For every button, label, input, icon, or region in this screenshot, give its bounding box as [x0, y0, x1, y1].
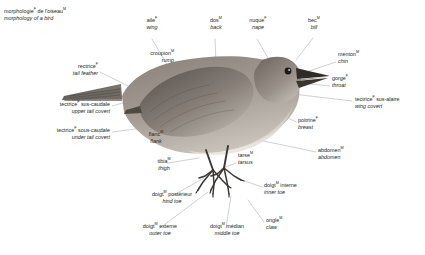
- label-abdomen: abdomenM abdomen: [318, 147, 344, 161]
- gender-marker: F: [96, 62, 98, 66]
- gender-marker: M: [219, 16, 222, 20]
- label-doigt-posterieur: doigtM postérieur hind toe: [133, 191, 211, 205]
- label-tectrice-sous-caudale: tectriceF sous-caudale under tail covert: [8, 127, 110, 141]
- label-nuque: nuqueF nape: [236, 17, 280, 31]
- label-croupion: croupionM rump: [116, 50, 174, 64]
- gender-marker: F: [155, 16, 157, 20]
- gender-marker: M: [167, 157, 170, 161]
- page-title: morphologieF de l'oiseauM morphology of …: [4, 8, 66, 22]
- gender-marker: F: [316, 116, 318, 120]
- gender-marker: M: [171, 49, 174, 53]
- label-gorge: gorgeF throat: [332, 75, 348, 89]
- label-poitrine: poitrineF breast: [298, 117, 318, 131]
- label-ongle: ongleM claw: [266, 217, 282, 231]
- label-tarse: tarseM tarsus: [238, 152, 253, 166]
- label-doigt-externe: doigtM externe outer toe: [129, 223, 191, 237]
- gender-marker: M: [63, 7, 66, 11]
- label-dos: dosM back: [196, 17, 236, 31]
- label-bec: becM bill: [294, 17, 334, 31]
- gender-marker: M: [160, 130, 163, 134]
- gender-marker: M: [356, 50, 359, 54]
- gender-marker: M: [279, 216, 282, 220]
- gender-marker: F: [264, 16, 266, 20]
- page-title-en: morphology of a bird: [4, 15, 66, 22]
- page-title-fr: morphologieF de l'oiseauM: [4, 8, 66, 15]
- label-tectrice-sus-alaire: tectriceF sus-alaire wing covert: [355, 96, 400, 110]
- label-flanc: flancM flank: [134, 131, 178, 145]
- label-doigt-interne: doigtM interne inner toe: [264, 182, 297, 196]
- bird-morphology-diagram: morphologieF de l'oiseauM morphology of …: [0, 0, 425, 255]
- gender-marker: M: [250, 151, 253, 155]
- label-aile: aileF wing: [130, 17, 174, 31]
- label-tibia: tibiaM thigh: [142, 158, 186, 172]
- label-rectrice: rectriceF tail feather: [28, 63, 98, 77]
- gender-marker: F: [346, 74, 348, 78]
- label-doigt-median: doigtM médian middle toe: [196, 223, 258, 237]
- gender-marker: M: [317, 16, 320, 20]
- label-tectrice-sus-caudale: tectriceF sus-caudale upper tail covert: [10, 101, 110, 115]
- gender-marker: M: [340, 146, 343, 150]
- label-menton: mentonM chin: [338, 51, 359, 65]
